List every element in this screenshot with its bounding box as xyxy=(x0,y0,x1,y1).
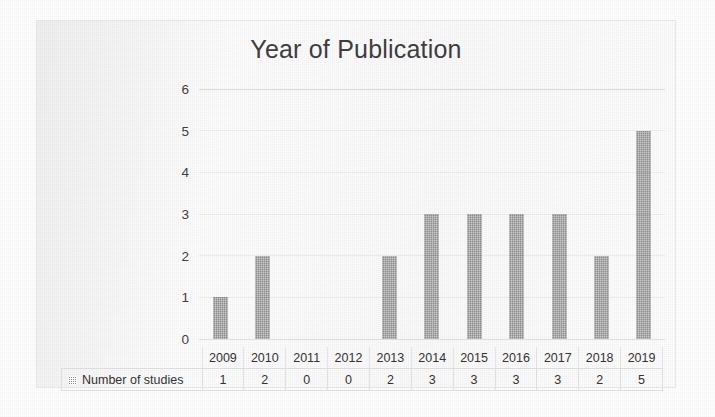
plot-area xyxy=(199,89,665,339)
table-value-2014: 3 xyxy=(411,369,453,391)
gridline xyxy=(199,297,665,298)
table-value-2010: 2 xyxy=(244,369,286,391)
bar-2019[interactable] xyxy=(636,131,651,339)
bar-2017[interactable] xyxy=(552,214,567,339)
gridline xyxy=(199,172,665,173)
table-corner-cell xyxy=(62,347,203,369)
table-header-row: 2009201020112012201320142015201620172018… xyxy=(62,347,663,369)
table-row: Number of studies 12002333325 xyxy=(62,369,663,391)
table-header-2015: 2015 xyxy=(453,347,495,369)
gridline xyxy=(199,339,665,340)
hatched-square-icon xyxy=(68,376,77,385)
chart-container: Year of Publication 6543210 200920102011… xyxy=(36,20,676,388)
table-header-2009: 2009 xyxy=(202,347,244,369)
table-value-2012: 0 xyxy=(328,369,370,391)
y-axis-tick-label: 0 xyxy=(181,332,189,347)
table-header-2017: 2017 xyxy=(537,347,579,369)
gridline xyxy=(199,89,665,90)
bar-2016[interactable] xyxy=(509,214,524,339)
table-value-2019: 5 xyxy=(621,369,663,391)
table-value-2011: 0 xyxy=(286,369,328,391)
y-axis-tick-label: 2 xyxy=(181,248,189,263)
legend-label: Number of studies xyxy=(82,373,183,387)
y-axis-tick-label: 6 xyxy=(181,82,189,97)
table-header-2013: 2013 xyxy=(369,347,411,369)
table-value-2018: 2 xyxy=(579,369,621,391)
y-axis: 6543210 xyxy=(37,89,199,339)
plot-region: 6543210 xyxy=(37,89,677,339)
chart-title: Year of Publication xyxy=(37,35,675,64)
table-value-2017: 3 xyxy=(537,369,579,391)
legend-entry: Number of studies xyxy=(62,369,203,391)
data-table: 2009201020112012201320142015201620172018… xyxy=(61,347,663,391)
table-header-2014: 2014 xyxy=(411,347,453,369)
bar-2015[interactable] xyxy=(467,214,482,339)
bar-2014[interactable] xyxy=(424,214,439,339)
table-header-2010: 2010 xyxy=(244,347,286,369)
table-value-2009: 1 xyxy=(202,369,244,391)
table-value-2013: 2 xyxy=(369,369,411,391)
table-header-2018: 2018 xyxy=(579,347,621,369)
gridline xyxy=(199,130,665,131)
y-axis-tick-label: 4 xyxy=(181,165,189,180)
y-axis-tick-label: 3 xyxy=(181,207,189,222)
table-header-2012: 2012 xyxy=(328,347,370,369)
bar-2009[interactable] xyxy=(213,297,228,339)
table-value-2016: 3 xyxy=(495,369,537,391)
table-value-2015: 3 xyxy=(453,369,495,391)
table-header-2016: 2016 xyxy=(495,347,537,369)
y-axis-tick-label: 5 xyxy=(181,123,189,138)
table-header-2019: 2019 xyxy=(621,347,663,369)
gridline xyxy=(199,255,665,256)
table-header-2011: 2011 xyxy=(286,347,328,369)
gridline xyxy=(199,214,665,215)
y-axis-tick-label: 1 xyxy=(181,290,189,305)
